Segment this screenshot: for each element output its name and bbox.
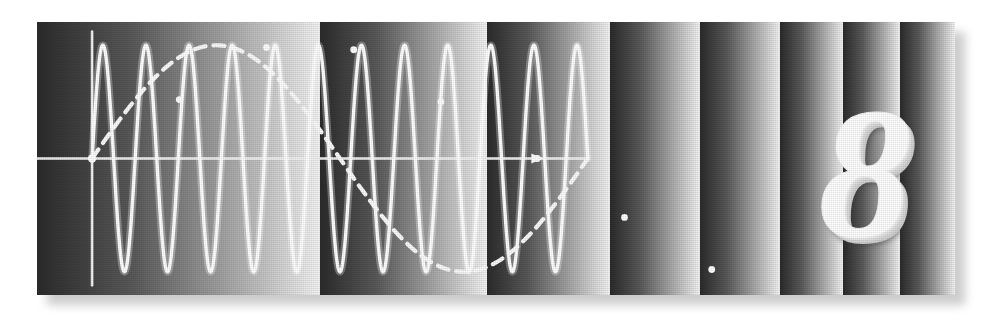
waveform-plot bbox=[37, 22, 955, 295]
envelope-marker-dot bbox=[708, 266, 715, 273]
photographic-plate: 8 bbox=[37, 22, 955, 295]
envelope-marker-dot bbox=[534, 155, 541, 162]
envelope-marker-dot bbox=[263, 44, 270, 51]
envelope-marker-dot bbox=[621, 214, 628, 221]
figure-canvas: 8 bbox=[0, 0, 988, 322]
